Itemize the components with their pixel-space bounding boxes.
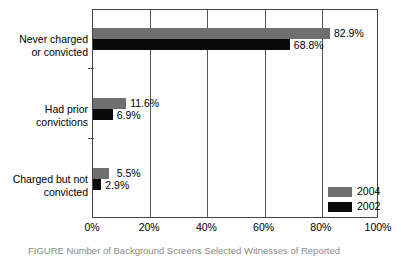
bar-value-had-prior-2004: 11.6% [130, 98, 159, 109]
category-label-never-charged-line2: or convicted [19, 46, 88, 59]
x-axis-tick-label-20: 20% [139, 221, 160, 233]
legend-item-2002[interactable]: 2002 [328, 200, 380, 213]
bar-had-prior-convictions-2004[interactable] [93, 98, 126, 109]
category-label-had-prior-convictions: Had prior convictions [36, 103, 88, 128]
legend-swatch-2002-icon [328, 202, 352, 212]
bar-never-charged-2004[interactable] [93, 28, 330, 39]
bar-had-prior-convictions-2002[interactable] [93, 109, 113, 120]
legend-label-2002: 2002 [357, 201, 380, 212]
bar-value-charged-not-convicted-2002: 2.9% [105, 180, 129, 191]
legend-item-2004[interactable]: 2004 [328, 185, 380, 198]
bar-charged-not-convicted-2002[interactable] [93, 179, 101, 190]
figure-caption: FIGURE Number of Background Screens Sele… [28, 245, 388, 256]
bar-value-never-charged-2004: 82.9% [334, 28, 364, 39]
bar-value-never-charged-2002: 68.8% [294, 40, 324, 51]
legend-swatch-2004-icon [328, 187, 352, 197]
category-label-never-charged-line1: Never charged [19, 33, 88, 46]
category-label-never-charged: Never charged or convicted [19, 33, 88, 58]
y-axis-tick-0 [88, 68, 94, 69]
legend: 2004 2002 [328, 185, 380, 215]
x-axis-tick-label-80: 80% [310, 221, 331, 233]
bar-value-charged-not-convicted-2004: 5.5% [117, 168, 141, 179]
x-axis-tick-label-60: 60% [253, 221, 274, 233]
bar-never-charged-2002[interactable] [93, 39, 290, 50]
bar-charged-not-convicted-2004[interactable] [93, 168, 109, 179]
x-axis-tick-label-100: 100% [365, 221, 392, 233]
x-axis-tick-label-40: 40% [196, 221, 217, 233]
category-label-charged-line2: convicted [13, 186, 88, 199]
legend-label-2004: 2004 [357, 186, 380, 197]
x-axis-tick-label-0: 0% [84, 221, 99, 233]
category-label-charged-line1: Charged but not [13, 173, 88, 186]
bar-value-had-prior-2002: 6.9% [117, 110, 141, 121]
y-axis-tick-1 [88, 138, 94, 139]
category-label-had-prior-line2: convictions [36, 116, 88, 129]
category-label-charged-not-convicted: Charged but not convicted [13, 173, 88, 198]
category-label-had-prior-line1: Had prior [36, 103, 88, 116]
